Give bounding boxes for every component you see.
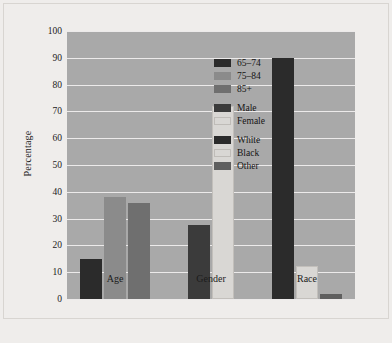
legend-label: 65–74 bbox=[237, 58, 261, 68]
legend-item: Female bbox=[214, 115, 290, 127]
legend-swatch bbox=[214, 85, 231, 93]
x-axis-tick-label-gender: Gender bbox=[196, 273, 225, 284]
legend-item: Black bbox=[214, 147, 290, 159]
x-axis-tick-label-age: Age bbox=[107, 273, 124, 284]
legend-label: White bbox=[237, 135, 260, 145]
bar-male bbox=[188, 225, 210, 299]
gridline bbox=[67, 58, 355, 59]
legend-swatch bbox=[214, 104, 231, 112]
legend-swatch bbox=[214, 149, 231, 157]
bar-85 bbox=[128, 203, 150, 299]
legend-swatch bbox=[214, 117, 231, 125]
gridline bbox=[67, 111, 355, 112]
chart-legend: 65–7475–8485+MaleFemaleWhiteBlackOther bbox=[214, 57, 290, 173]
gridline bbox=[67, 165, 355, 166]
legend-swatch bbox=[214, 72, 231, 80]
legend-item: 85+ bbox=[214, 83, 290, 95]
y-axis-title: Percentage bbox=[22, 109, 33, 199]
plot-area: 0102030405060708090100 bbox=[67, 31, 355, 299]
legend-item: Other bbox=[214, 160, 290, 172]
legend-label: Male bbox=[237, 103, 257, 113]
legend-label: Other bbox=[237, 161, 259, 171]
legend-swatch bbox=[214, 136, 231, 144]
gridline bbox=[67, 85, 355, 86]
legend-label: 85+ bbox=[237, 84, 252, 94]
gridline bbox=[67, 192, 355, 193]
chart-figure: Percentage 0102030405060708090100 AgeGen… bbox=[0, 0, 392, 343]
legend-label: 75–84 bbox=[237, 71, 261, 81]
legend-swatch bbox=[214, 162, 231, 170]
legend-item: Male bbox=[214, 102, 290, 114]
gridline bbox=[67, 299, 355, 300]
x-axis-tick-label-race: Race bbox=[297, 273, 317, 284]
bar-other bbox=[320, 294, 342, 299]
legend-item: White bbox=[214, 134, 290, 146]
gridline bbox=[67, 138, 355, 139]
legend-swatch bbox=[214, 59, 231, 67]
gridline bbox=[67, 31, 355, 32]
legend-label: Black bbox=[237, 148, 259, 158]
legend-item: 65–74 bbox=[214, 57, 290, 69]
bar-65-74 bbox=[80, 259, 102, 299]
legend-item: 75–84 bbox=[214, 70, 290, 82]
legend-label: Female bbox=[237, 116, 265, 126]
